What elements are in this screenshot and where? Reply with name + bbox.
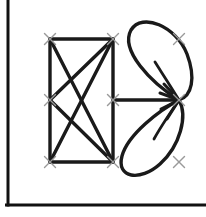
sketch-canvas — [0, 0, 206, 217]
sketch-drawing — [0, 0, 206, 217]
